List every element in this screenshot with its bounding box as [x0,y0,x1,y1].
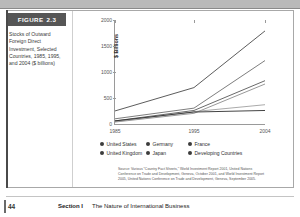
y-tick-label: 0 [109,121,112,127]
chart-legend: United StatesGermanyFranceUnited Kingdom… [100,141,260,156]
legend-label: United States [107,141,137,147]
chart-container: $ Billions 0500100015002000 198519952004 [78,14,288,140]
y-tick-label: 2000 [101,17,112,23]
legend-marker-icon [188,142,192,146]
legend-label: Japan [153,150,167,156]
y-tick-label: 500 [104,95,112,101]
page-footer: 44 Section I The Nature of International… [0,196,300,217]
footer-section: Section I [58,203,83,209]
legend-marker-icon [100,142,104,146]
legend-marker-icon [188,151,192,155]
footer-section-title: The Nature of International Business [92,203,189,209]
legend-item: Japan [146,150,188,156]
legend-label: France [195,141,211,147]
legend-label: Developing Countries [195,150,243,156]
footer-rule [6,196,294,197]
figure-column-divider [72,11,73,187]
figure-left-rule [6,10,8,188]
x-tick-label: 1985 [109,128,120,134]
page-top-band-edge [0,8,300,9]
footer-page-marker [4,200,6,213]
legend-label: Germany [153,141,174,147]
textbook-page: FIGURE 2.3 Stocks of Outward Foreign Dir… [0,0,300,217]
chart-plot-area: $ Billions 0500100015002000 198519952004 [114,20,265,125]
legend-item: United Kingdom [100,150,146,156]
source-line-3: 2005, United Nations Conference on Trade… [118,177,268,182]
figure-caption: Stocks of Outward Foreign Direct Investm… [9,31,67,67]
legend-item: Developing Countries [188,150,246,156]
y-tick-label: 1000 [101,69,112,75]
figure-number: 2.3 [46,16,56,23]
legend-marker-icon [146,151,150,155]
series-line-germany [115,81,265,121]
figure-source-note: Source: Various "Country Fact Sheets," W… [118,167,268,182]
x-tick-label: 2004 [259,128,270,134]
legend-item: United States [100,141,146,147]
legend-item: Germany [146,141,188,147]
chart-series-lines [115,20,265,124]
legend-item: France [188,141,246,147]
series-line-united-states [115,31,265,111]
legend-label: United Kingdom [107,150,143,156]
figure-label-tab: FIGURE 2.3 [8,13,66,26]
series-line-japan [115,105,265,122]
page-number: 44 [8,203,15,210]
x-tick-label: 1995 [188,128,199,134]
y-tick-label: 1500 [101,43,112,49]
figure-label-text: FIGURE [18,16,44,23]
legend-marker-icon [146,142,150,146]
x-tick-mark [265,20,266,23]
legend-marker-icon [100,151,104,155]
